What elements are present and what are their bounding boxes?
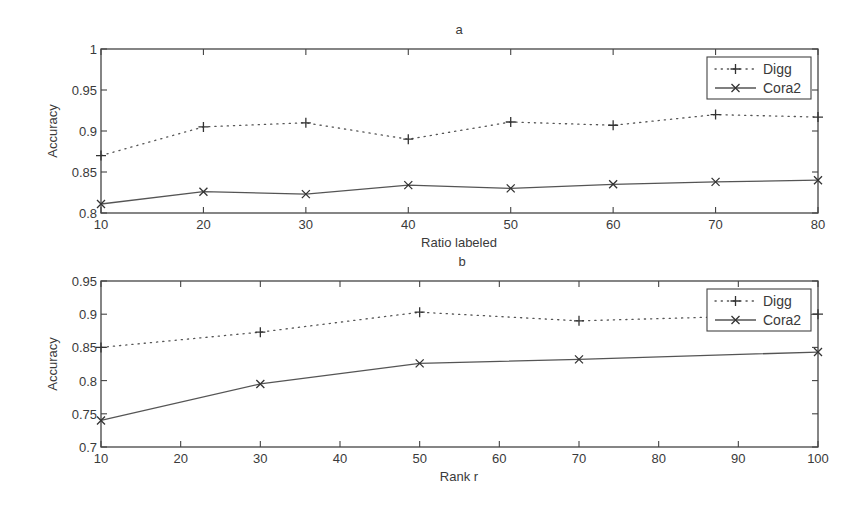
panel-a: a 10203040506070800.80.850.90.951 Ratio … bbox=[45, 22, 825, 250]
x-tick-label: 70 bbox=[572, 451, 586, 466]
chart-canvas: a 10203040506070800.80.850.90.951 Ratio … bbox=[0, 0, 868, 509]
plus-marker-icon bbox=[711, 110, 721, 120]
x-tick-label: 20 bbox=[173, 451, 187, 466]
plus-marker-icon bbox=[415, 307, 425, 317]
y-tick-label: 0.95 bbox=[72, 274, 97, 289]
series-line-cora2 bbox=[101, 352, 818, 420]
x-tick-label: 80 bbox=[651, 451, 665, 466]
plus-marker-icon bbox=[403, 134, 413, 144]
plus-marker-icon bbox=[255, 327, 265, 337]
y-tick-label: 0.85 bbox=[72, 340, 97, 355]
y-tick-label: 0.75 bbox=[72, 407, 97, 422]
panel-a-legend: Digg Cora2 bbox=[707, 57, 811, 99]
legend-label-digg: Digg bbox=[763, 61, 792, 77]
x-tick-label: 30 bbox=[299, 217, 313, 232]
y-tick-label: 0.8 bbox=[79, 374, 97, 389]
x-tick-label: 60 bbox=[492, 451, 506, 466]
x-tick-label: 20 bbox=[196, 217, 210, 232]
legend-label-cora2: Cora2 bbox=[763, 80, 801, 96]
x-tick-label: 40 bbox=[401, 217, 415, 232]
panel-b-legend: Digg Cora2 bbox=[707, 289, 811, 331]
plus-marker-icon bbox=[813, 309, 823, 319]
plus-marker-icon bbox=[506, 117, 516, 127]
panel-a-ylabel: Accuracy bbox=[45, 104, 60, 158]
y-tick-label: 0.8 bbox=[79, 206, 97, 221]
x-tick-label: 70 bbox=[708, 217, 722, 232]
x-tick-label: 80 bbox=[811, 217, 825, 232]
x-tick-label: 60 bbox=[606, 217, 620, 232]
x-tick-label: 50 bbox=[412, 451, 426, 466]
panel-b: b 1020304050607080901000.70.750.80.850.9… bbox=[45, 254, 829, 484]
plus-marker-icon bbox=[198, 122, 208, 132]
x-tick-label: 30 bbox=[253, 451, 267, 466]
figure: a 10203040506070800.80.850.90.951 Ratio … bbox=[0, 0, 868, 509]
y-tick-label: 0.9 bbox=[79, 307, 97, 322]
plus-marker-icon bbox=[813, 112, 823, 122]
plus-marker-icon bbox=[301, 118, 311, 128]
plus-marker-icon bbox=[96, 151, 106, 161]
panel-a-series bbox=[96, 110, 823, 208]
y-tick-label: 0.9 bbox=[79, 124, 97, 139]
y-tick-label: 0.85 bbox=[72, 165, 97, 180]
panel-a-title: a bbox=[455, 22, 463, 37]
y-tick-label: 0.7 bbox=[79, 440, 97, 455]
x-tick-label: 50 bbox=[503, 217, 517, 232]
x-tick-label: 100 bbox=[807, 451, 829, 466]
plus-marker-icon bbox=[608, 120, 618, 130]
series-line-cora2 bbox=[101, 180, 818, 204]
x-tick-label: 90 bbox=[731, 451, 745, 466]
panel-a-xlabel: Ratio labeled bbox=[421, 235, 497, 250]
series-line-digg bbox=[101, 115, 818, 156]
x-tick-label: 40 bbox=[333, 451, 347, 466]
plus-marker-icon bbox=[96, 342, 106, 352]
panel-b-ylabel: Accuracy bbox=[45, 337, 60, 391]
y-tick-label: 1 bbox=[90, 42, 97, 57]
panel-b-title: b bbox=[458, 254, 465, 269]
y-tick-label: 0.95 bbox=[72, 83, 97, 98]
legend-label-cora2: Cora2 bbox=[763, 312, 801, 328]
legend-label-digg: Digg bbox=[763, 293, 792, 309]
plus-marker-icon bbox=[574, 316, 584, 326]
panel-b-xlabel: Rank r bbox=[440, 469, 479, 484]
